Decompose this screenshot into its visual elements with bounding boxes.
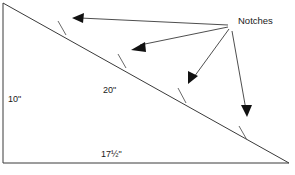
leader-line-1 [80, 18, 228, 25]
bottom-side-dimension-label: 17½" [101, 149, 122, 159]
notch-tick-3 [178, 88, 186, 103]
arrow-head-2 [131, 42, 146, 52]
diagram-canvas: 10" 20" 17½" Notches [0, 0, 295, 175]
notch-tick-1 [58, 21, 66, 35]
leader-line-4 [232, 31, 246, 110]
notches-callout-label: Notches [238, 15, 273, 26]
leader-line-2 [140, 27, 228, 45]
arrow-head-4 [241, 105, 252, 117]
leader-line-3 [194, 29, 229, 77]
hypotenuse-dimension-label: 20" [103, 85, 116, 95]
notch-tick-4 [239, 126, 247, 140]
arrow-head-1 [72, 13, 84, 23]
vertical-side-dimension-label: 10" [8, 94, 21, 104]
notch-tick-2 [118, 54, 126, 68]
triangle-notches-diagram: 10" 20" 17½" Notches [0, 0, 295, 175]
